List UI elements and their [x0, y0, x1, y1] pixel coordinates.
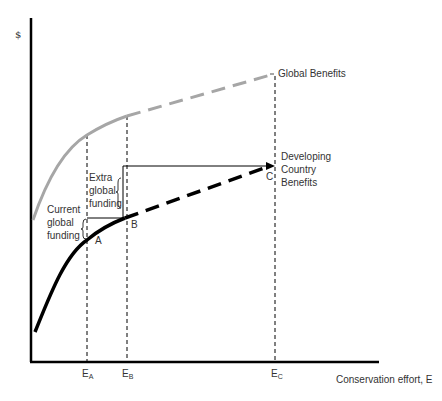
extra-funding-label: Extra global funding — [89, 172, 122, 210]
tick-eb-sub: B — [129, 373, 134, 380]
tick-ec-sub: C — [278, 373, 283, 380]
benefits-diagram: $ Global Benefits Developing Country Ben… — [0, 0, 442, 401]
developing-line-3: Benefits — [281, 177, 331, 189]
developing-line-2: Country — [281, 164, 331, 176]
tick-ec-e: E — [271, 368, 278, 379]
point-b-label: B — [131, 219, 138, 231]
diagram-canvas — [0, 0, 442, 401]
arrow-head-icon — [266, 162, 275, 170]
developing-benefits-curve-dashed — [125, 166, 270, 218]
tick-eb: EB — [122, 368, 133, 383]
developing-benefits-label: Developing Country Benefits — [281, 151, 331, 189]
extra-line-3: funding — [89, 198, 122, 210]
current-funding-label: Current global funding — [47, 204, 80, 242]
extra-line-2: global — [89, 185, 122, 197]
tick-ea-e: E — [82, 368, 89, 379]
developing-line-1: Developing — [281, 151, 331, 163]
point-c-label: C — [266, 171, 273, 183]
extra-line-1: Extra — [89, 172, 122, 184]
current-line-2: global — [47, 217, 80, 229]
global-benefits-label: Global Benefits — [278, 68, 346, 80]
tick-ec: EC — [271, 368, 283, 383]
current-funding-brace — [81, 219, 86, 239]
current-line-1: Current — [47, 204, 80, 216]
tick-ea-sub: A — [89, 373, 94, 380]
point-a-label: A — [95, 235, 102, 247]
global-benefits-curve-dashed — [127, 74, 274, 116]
x-axis-label: Conservation effort, E — [336, 374, 433, 386]
y-axis-label: $ — [15, 29, 21, 41]
tick-ea: EA — [82, 368, 93, 383]
current-line-3: funding — [47, 230, 80, 242]
tick-eb-e: E — [122, 368, 129, 379]
